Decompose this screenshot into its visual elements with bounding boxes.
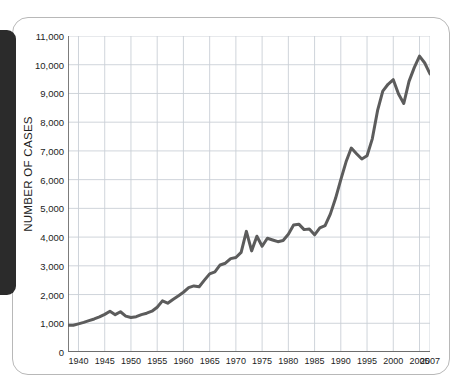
chart-axes: [68, 36, 430, 352]
x-tick-label: 1995: [357, 356, 377, 366]
x-tick-label-layer: 1940194519501955196019651970197519801985…: [68, 356, 430, 372]
y-tick-label: 7,000: [40, 145, 64, 156]
chart-plot-area: [68, 36, 430, 352]
y-tick-label: 6,000: [40, 174, 64, 185]
y-tick-label: 3,000: [40, 260, 64, 271]
x-tick-label: 1960: [173, 356, 193, 366]
black-index-tab: [0, 30, 16, 295]
x-tick-label: 1975: [252, 356, 272, 366]
x-tick-label: 1955: [147, 356, 167, 366]
x-tick-label: 1950: [121, 356, 141, 366]
y-tick-label: 11,000: [36, 31, 64, 42]
y-tick-label: 5,000: [40, 203, 64, 214]
data-series-line: [68, 56, 430, 325]
x-tick-label: 1945: [95, 356, 115, 366]
x-tick-label: 1985: [305, 356, 325, 366]
y-tick-label: 0: [59, 347, 64, 358]
y-tick-label: 10,000: [35, 59, 64, 70]
y-tick-label-layer: 01,0002,0003,0004,0005,0006,0007,0008,00…: [20, 36, 64, 352]
x-tick-label: 1940: [68, 356, 88, 366]
page-root: NUMBER OF CASES 01,0002,0003,0004,0005,0…: [0, 0, 471, 392]
y-tick-label: 9,000: [40, 88, 64, 99]
x-tick-label: 2000: [383, 356, 403, 366]
vertical-gridlines: [78, 36, 430, 352]
y-tick-label: 1,000: [40, 318, 64, 329]
y-tick-label: 8,000: [40, 117, 64, 128]
x-tick-label: 1970: [226, 356, 246, 366]
x-tick-label: 2007: [420, 356, 440, 366]
line-chart-svg: [68, 36, 430, 352]
x-tick-label: 1980: [278, 356, 298, 366]
y-tick-label: 4,000: [40, 232, 64, 243]
horizontal-gridlines: [68, 36, 430, 323]
x-tick-label: 1990: [331, 356, 351, 366]
x-tick-label: 1965: [200, 356, 220, 366]
y-tick-label: 2,000: [40, 289, 64, 300]
